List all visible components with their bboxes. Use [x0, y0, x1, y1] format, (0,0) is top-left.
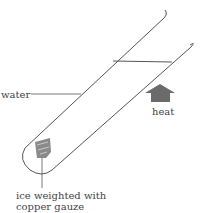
heat-label: heat	[152, 106, 174, 117]
ice-gauze-icon	[35, 138, 51, 158]
ice-label-line1: ice weighted with	[16, 190, 106, 201]
ice-label-line2: copper gauze	[16, 201, 84, 212]
water-surface-line	[113, 61, 172, 62]
water-label: water	[1, 89, 30, 100]
heat-arrow-icon	[145, 84, 175, 102]
